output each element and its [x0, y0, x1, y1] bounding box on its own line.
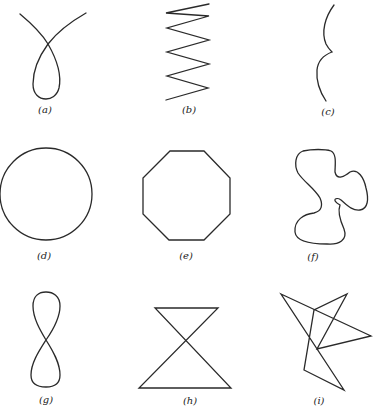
curves-figure: (a) (b) (c) (d) (e) (f) (g) (h) (i): [0, 0, 373, 420]
panel-c: (c): [317, 5, 335, 117]
panel-b: (b): [166, 4, 209, 115]
panel-i: (i): [281, 294, 371, 406]
panel-label: (h): [183, 395, 197, 406]
panel-label: (c): [321, 106, 335, 117]
panel-label: (g): [39, 394, 53, 405]
panel-label: (b): [182, 104, 196, 115]
loop-curve-shape: [20, 13, 86, 99]
figure-eight-shape: [31, 292, 60, 387]
panel-h: (h): [139, 308, 231, 406]
panel-a: (a): [20, 13, 86, 115]
panel-label: (i): [313, 395, 324, 406]
octagon-shape: [143, 151, 230, 240]
cusp-curve-shape: [317, 5, 334, 101]
panel-label: (a): [38, 104, 52, 115]
closed-blob-shape: [295, 150, 368, 245]
panel-label: (e): [179, 250, 193, 261]
panel-label: (d): [37, 250, 51, 261]
zigzag-shape: [166, 4, 209, 100]
bowtie-shape: [139, 308, 231, 388]
circle-shape: [0, 148, 92, 240]
self-intersecting-polygon-shape: [281, 294, 371, 390]
panel-d: (d): [0, 148, 92, 261]
panel-label: (f): [307, 251, 319, 262]
panel-g: (g): [31, 292, 60, 405]
panel-f: (f): [295, 150, 368, 263]
panel-e: (e): [143, 151, 230, 261]
